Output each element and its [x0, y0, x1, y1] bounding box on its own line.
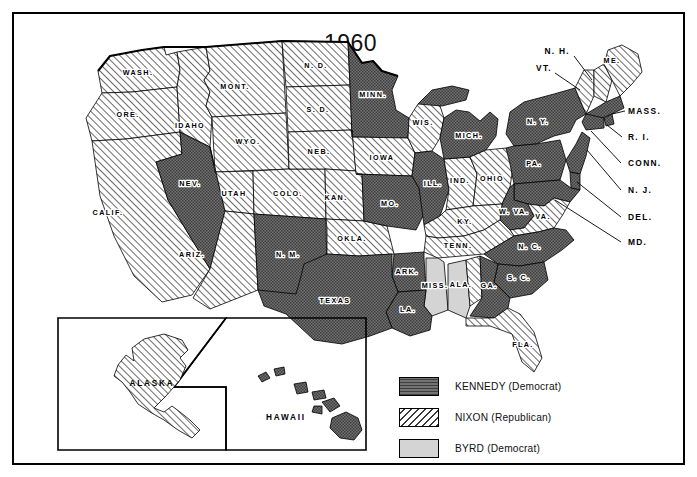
map-legend: KENNEDY (Democrat) NIXON (Republican) BY… — [399, 371, 649, 464]
label-CALIF: CALIF. — [93, 208, 124, 217]
leader-vt — [555, 73, 580, 90]
leader-ri — [607, 125, 622, 137]
label-GA: GA. — [481, 281, 498, 290]
label-TEXAS: TEXAS — [320, 296, 351, 305]
label-SD: S. D. — [307, 105, 330, 114]
label-IOWA: IOWA — [370, 153, 395, 162]
label-NY: N. Y. — [527, 117, 549, 126]
callout-NJ: N. J. — [628, 185, 652, 195]
label-IND: IND. — [450, 176, 470, 185]
label-MISS: MISS. — [422, 281, 449, 290]
callout-CONN: CONN. — [628, 158, 662, 168]
label-PA: PA. — [526, 159, 542, 168]
legend-label-nixon: NIXON (Republican) — [455, 412, 551, 423]
label-WYO: WYO. — [236, 137, 261, 146]
label-MICH: MICH. — [455, 131, 482, 140]
callout-VT: VT. — [536, 63, 552, 73]
legend-label-kennedy: KENNEDY (Democrat) — [455, 381, 561, 392]
label-KAN: KAN. — [324, 193, 347, 202]
label-ILL: ILL. — [424, 179, 442, 188]
leader-nj — [587, 150, 621, 190]
legend-row-byrd[interactable]: BYRD (Democrat) — [399, 433, 649, 464]
legend-swatch-nixon — [399, 408, 439, 427]
label-SC: S. C. — [508, 273, 531, 282]
label-FLA: FLA. — [512, 340, 534, 349]
election-map-figure: 1960 — [0, 0, 697, 477]
label-NC: N. C. — [518, 242, 541, 251]
legend-row-nixon[interactable]: NIXON (Republican) — [399, 402, 649, 433]
callout-MASS: MASS. — [628, 106, 661, 116]
label-ME: ME. — [604, 56, 621, 65]
label-VA: VA. — [535, 212, 551, 221]
label-OHIO: OHIO — [480, 174, 504, 183]
leader-conn — [591, 131, 621, 163]
state-group-midwest — [348, 42, 514, 230]
label-WASH: WASH. — [123, 68, 154, 77]
state-DEL[interactable] — [570, 172, 580, 190]
label-ALASKA: ALASKA — [130, 379, 175, 388]
callout-MD: MD. — [628, 237, 647, 247]
label-ARK: ARK. — [395, 267, 418, 276]
map-border-frame: 1960 — [12, 12, 685, 465]
label-ND: N. D. — [304, 61, 327, 70]
legend-label-byrd: BYRD (Democrat) — [455, 443, 540, 454]
label-OKLA: OKLA. — [337, 234, 366, 243]
label-NEV: NEV. — [179, 179, 201, 188]
label-ALA: ALA. — [450, 280, 472, 289]
label-WVA: W. VA. — [499, 207, 529, 216]
label-IDAHO: IDAHO — [175, 121, 205, 130]
label-MONT: MONT. — [220, 82, 249, 91]
label-ORE: ORE. — [116, 110, 139, 119]
callout-NH: N. H. — [544, 46, 570, 56]
label-NM: N. M. — [276, 250, 300, 259]
legend-swatch-kennedy — [399, 377, 439, 396]
label-WIS: WIS. — [412, 118, 433, 127]
callout-DEL: DEL. — [628, 212, 652, 222]
label-LA: LA. — [400, 305, 416, 314]
hawaii-islands[interactable] — [258, 367, 362, 440]
label-UTAH: UTAH — [221, 189, 246, 198]
state-MONT[interactable] — [204, 41, 286, 117]
label-ARIZ: ARIZ. — [179, 250, 205, 259]
state-IDAHO[interactable] — [177, 47, 212, 147]
label-MO: MO. — [381, 199, 399, 208]
legend-row-kennedy[interactable]: KENNEDY (Democrat) — [399, 371, 649, 402]
callout-RI: R. I. — [628, 132, 650, 142]
legend-swatch-byrd — [399, 439, 439, 458]
label-NEB: NEB. — [308, 147, 331, 156]
label-TENN: TENN. — [444, 241, 473, 250]
label-MINN: MINN. — [359, 90, 386, 99]
label-COLO: COLO. — [273, 189, 303, 198]
leader-del — [577, 182, 621, 217]
state-NJ[interactable] — [566, 132, 590, 174]
label-KY: KY. — [457, 217, 472, 226]
label-HAWAII: HAWAII — [266, 413, 306, 422]
